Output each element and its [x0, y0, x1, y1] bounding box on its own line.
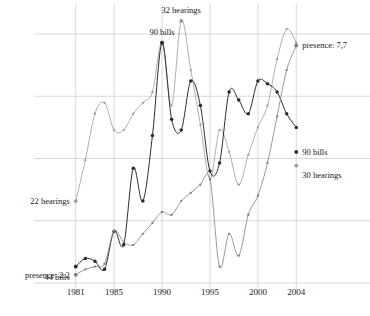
- data-point-presence: [199, 184, 201, 186]
- data-point-bills: [122, 243, 126, 247]
- data-point-presence: [218, 265, 220, 267]
- data-point-presence: [94, 265, 96, 267]
- data-point-hearings: [295, 42, 297, 44]
- data-point-bills: [266, 82, 270, 86]
- data-point-hearings: [84, 159, 86, 161]
- data-point-hearings: [257, 126, 259, 128]
- x-tick-label-1981: 1981: [67, 287, 85, 297]
- data-point-hearings: [228, 151, 230, 153]
- data-point-presence: [132, 244, 134, 246]
- data-point-bills: [208, 169, 212, 173]
- data-point-presence: [113, 230, 115, 232]
- annotation-hearings-end: 30 hearings: [302, 170, 341, 180]
- data-point-bills: [93, 259, 97, 263]
- data-point-bills: [285, 112, 289, 116]
- annotation-anchor-hearings-peak: [179, 19, 183, 23]
- x-tick-label-1990: 1990: [153, 287, 172, 297]
- annotation-anchor-hearings-end: [294, 164, 298, 168]
- data-point-presence: [266, 162, 268, 164]
- line-chart: 198119851990199520002004 22 hearingspres…: [0, 0, 370, 316]
- data-point-hearings: [142, 102, 144, 104]
- x-tick-label-2000: 2000: [249, 287, 268, 297]
- data-point-hearings: [238, 184, 240, 186]
- data-point-hearings: [266, 104, 268, 106]
- annotation-bills-peak: 90 bills: [149, 27, 174, 37]
- data-point-bills: [256, 79, 260, 83]
- data-point-bills: [199, 104, 203, 108]
- data-point-bills: [84, 257, 88, 261]
- data-point-presence: [238, 255, 240, 257]
- annotation-anchor-bills-start: [74, 265, 78, 269]
- data-point-presence: [151, 222, 153, 224]
- data-point-presence: [180, 200, 182, 202]
- data-point-presence: [286, 69, 288, 71]
- data-point-bills: [237, 98, 241, 102]
- data-point-hearings: [247, 154, 249, 156]
- data-point-bills: [247, 112, 251, 116]
- data-point-presence: [123, 241, 125, 243]
- data-point-bills: [275, 90, 279, 94]
- data-point-hearings: [103, 102, 105, 104]
- data-point-presence: [209, 178, 211, 180]
- data-point-bills: [141, 199, 145, 203]
- annotation-anchor-bills-peak: [160, 41, 164, 45]
- data-point-presence: [247, 214, 249, 216]
- data-point-presence: [190, 192, 192, 194]
- data-point-presence: [257, 194, 259, 196]
- x-tick-label-2004: 2004: [287, 287, 306, 297]
- data-point-bills: [179, 128, 183, 132]
- data-point-presence: [276, 115, 278, 117]
- data-point-presence: [170, 214, 172, 216]
- data-point-presence: [103, 263, 105, 265]
- data-point-hearings: [94, 113, 96, 115]
- data-point-hearings: [170, 104, 172, 106]
- data-point-hearings: [190, 69, 192, 71]
- annotation-bills-end: 90 bills: [302, 147, 327, 157]
- data-point-bills: [189, 79, 193, 83]
- data-point-presence: [84, 268, 86, 270]
- annotation-anchor-hearings-start: [74, 199, 78, 203]
- data-point-bills: [295, 126, 299, 130]
- data-point-bills: [103, 268, 107, 272]
- data-point-hearings: [132, 113, 134, 115]
- annotation-anchor-bills-end: [294, 150, 298, 154]
- data-point-hearings: [276, 58, 278, 60]
- x-tick-label-1985: 1985: [105, 287, 124, 297]
- data-point-bills: [132, 167, 136, 171]
- annotation-presence-end: presence: 7,7: [302, 40, 347, 50]
- data-point-bills: [170, 117, 174, 121]
- annotation-hearings-start: 22 hearings: [30, 196, 69, 206]
- x-tick-label-1995: 1995: [201, 287, 220, 297]
- data-point-presence: [142, 233, 144, 235]
- data-point-hearings: [199, 124, 201, 126]
- data-point-bills: [227, 90, 231, 94]
- data-point-presence: [161, 211, 163, 213]
- chart-canvas: 198119851990199520002004 22 hearingspres…: [0, 0, 370, 316]
- data-point-hearings: [286, 28, 288, 30]
- annotation-hearings-peak: 32 hearings: [161, 5, 200, 15]
- data-point-hearings: [151, 91, 153, 93]
- annotation-bills-start: 44 bills: [44, 272, 69, 282]
- data-point-hearings: [123, 129, 125, 131]
- data-point-bills: [218, 161, 222, 165]
- annotation-anchor-presence-start: [74, 273, 78, 277]
- data-point-hearings: [218, 129, 220, 131]
- data-point-hearings: [113, 129, 115, 131]
- annotation-anchor-presence-end: [294, 44, 298, 48]
- data-point-bills: [151, 134, 155, 138]
- data-point-presence: [228, 233, 230, 235]
